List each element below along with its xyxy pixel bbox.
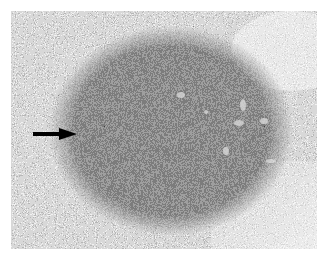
micrograph-image <box>11 11 317 249</box>
follicle <box>11 11 317 249</box>
micrograph-svg <box>11 11 317 249</box>
